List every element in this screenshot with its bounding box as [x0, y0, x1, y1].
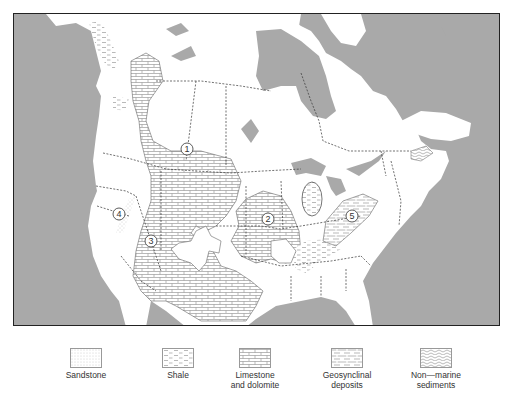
legend-label-nonmarine: Non—marine sediments — [386, 370, 486, 390]
region-label-5: 5 — [349, 211, 354, 221]
shale-swatch-icon — [162, 348, 194, 368]
region-marker-1: 1 — [181, 143, 193, 155]
north-america-map: 1 2 3 4 5 — [14, 14, 500, 326]
legend-item-sandstone: Sandstone — [36, 348, 136, 380]
legend-label-sandstone: Sandstone — [36, 370, 136, 380]
region-marker-5: 5 — [346, 210, 358, 222]
shale-michigan — [302, 182, 322, 216]
region-label-2: 2 — [265, 214, 270, 224]
region-label-4: 4 — [116, 209, 121, 219]
region-label-3: 3 — [148, 236, 153, 246]
legend-label-geosynclinal: Geosynclinal deposits — [297, 370, 397, 390]
sandstone-swatch-icon — [70, 348, 102, 368]
legend-item-nonmarine: Non—marine sediments — [386, 348, 486, 390]
legend-item-limestone: Limestone and dolomite — [205, 348, 305, 390]
legend-item-geosynclinal: Geosynclinal deposits — [297, 348, 397, 390]
region-marker-4: 4 — [113, 208, 125, 220]
region-label-1: 1 — [184, 144, 189, 154]
region-marker-2: 2 — [262, 213, 274, 225]
legend-label-limestone: Limestone and dolomite — [205, 370, 305, 390]
nonmarine-swatch-icon — [420, 348, 452, 368]
region-marker-3: 3 — [145, 235, 157, 247]
geosynclinal-swatch-icon — [331, 348, 363, 368]
legend: Sandstone Shale Limestone and dolomite G… — [0, 348, 515, 399]
map-frame: 1 2 3 4 5 — [13, 13, 500, 326]
limestone-swatch-icon — [239, 348, 271, 368]
